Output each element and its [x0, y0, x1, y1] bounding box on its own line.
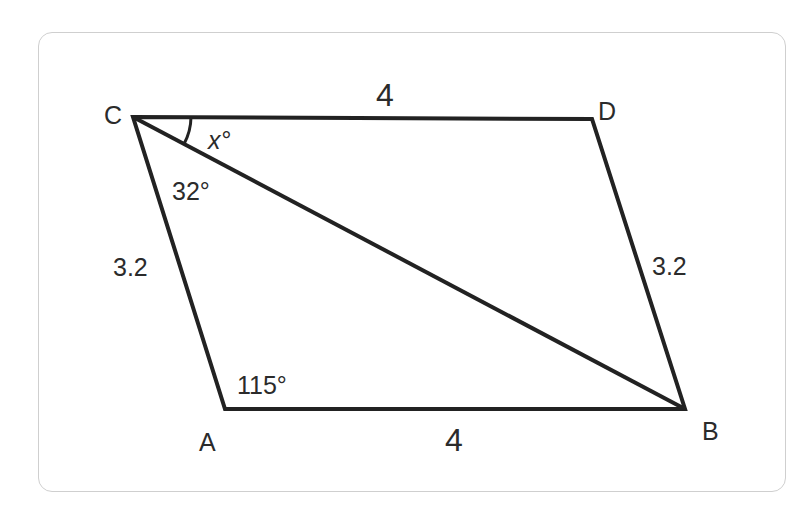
diagonal-cb: [133, 117, 685, 409]
angle-arc-x: [184, 117, 191, 144]
parallelogram-diagram: C D B A 4 4 3.2 3.2 x° 32° 115°: [0, 0, 810, 516]
angle-label-115: 115°: [237, 371, 287, 399]
angle-label-32: 32°: [172, 177, 210, 205]
angle-label-x: x°: [207, 126, 231, 154]
vertex-label-b: B: [702, 417, 719, 445]
side-label-db: 3.2: [652, 252, 687, 280]
side-label-cd: 4: [376, 77, 394, 113]
side-label-ca: 3.2: [113, 253, 148, 281]
side-label-ab: 4: [445, 422, 463, 458]
vertex-label-a: A: [199, 428, 216, 456]
vertex-label-d: D: [598, 97, 616, 125]
vertex-label-c: C: [104, 101, 122, 129]
